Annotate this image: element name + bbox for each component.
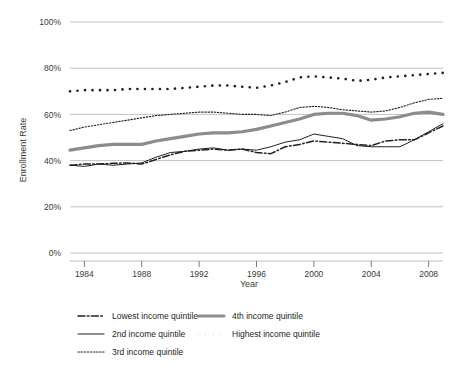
enrollment-rate-line-chart: 0%20%40%60%80%100% 198419881992199620002…: [0, 0, 469, 370]
x-tick-label: 2004: [362, 269, 381, 279]
y-tick-label: 40%: [44, 156, 61, 166]
x-tick-label: 1988: [132, 269, 151, 279]
y-tick-label: 60%: [44, 110, 61, 120]
data-series-group: [70, 73, 443, 167]
x-axis-title: Year: [240, 279, 258, 289]
gridlines: [70, 22, 443, 253]
y-tick-label: 20%: [44, 202, 61, 212]
series-line-4: [70, 73, 443, 91]
x-axis-tick-labels: 1984198819921996200020042008: [75, 269, 438, 279]
chart-legend: Lowest income quintile4th income quintil…: [78, 311, 320, 357]
x-tick-label: 1992: [190, 269, 209, 279]
chart-container: 0%20%40%60%80%100% 198419881992199620002…: [0, 0, 469, 370]
x-tick-label: 2008: [419, 269, 438, 279]
y-axis-title: Enrollment Rate: [18, 118, 28, 183]
y-tick-label: 80%: [44, 63, 61, 73]
x-axis: [70, 261, 443, 267]
series-line-3: [70, 112, 443, 150]
x-tick-label: 2000: [304, 269, 323, 279]
x-tick-label: 1984: [75, 269, 94, 279]
y-axis-tick-labels: 0%20%40%60%80%100%: [39, 17, 61, 258]
y-tick-label: 100%: [39, 17, 61, 27]
legend-label-4: 3rd income quintile: [112, 347, 184, 357]
legend-label-1: 4th income quintile: [232, 311, 303, 321]
legend-label-2: 2nd income quintile: [112, 329, 186, 339]
y-tick-label: 0%: [49, 248, 62, 258]
legend-label-0: Lowest income quintile: [112, 311, 198, 321]
legend-label-3: Highest income quintile: [232, 329, 320, 339]
x-tick-label: 1996: [247, 269, 266, 279]
